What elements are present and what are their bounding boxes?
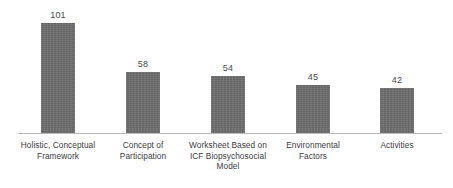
bar-chart: 101 58 54 45 42 Holistic, Conceptual Fra…: [0, 0, 453, 188]
plot-area: 101 58 54 45 42: [0, 0, 453, 135]
category-label: Concept of Participation: [97, 140, 189, 161]
category-label: Holistic, Conceptual Framework: [12, 140, 104, 161]
category-label: Worksheet Based on ICF Biopsychosocial M…: [182, 140, 274, 172]
category-label-line: ICF Biopsychosocial: [182, 151, 274, 162]
bar-value-label: 54: [183, 63, 273, 73]
category-label-line: Environmental: [267, 140, 359, 151]
bar[interactable]: [126, 72, 160, 133]
category-label-line: Participation: [97, 151, 189, 162]
category-label-line: Model: [182, 161, 274, 172]
category-label-line: Factors: [267, 151, 359, 162]
category-label: Activities: [351, 140, 443, 151]
bar-value-label: 45: [268, 72, 358, 82]
x-axis-category-labels: Holistic, Conceptual Framework Concept o…: [0, 137, 453, 185]
category-label-line: Concept of: [97, 140, 189, 151]
category-label: Environmental Factors: [267, 140, 359, 161]
bar[interactable]: [41, 23, 75, 133]
category-label-line: Framework: [12, 151, 104, 162]
bar-group: 54: [183, 0, 273, 135]
category-label-line: Activities: [351, 140, 443, 151]
bar[interactable]: [211, 76, 245, 133]
bar-group: 45: [268, 0, 358, 135]
bar-group: 42: [352, 0, 442, 135]
bar-group: 58: [98, 0, 188, 135]
bar[interactable]: [380, 88, 414, 133]
bar-value-label: 58: [98, 59, 188, 69]
bar-value-label: 101: [13, 10, 103, 20]
category-label-line: Holistic, Conceptual: [12, 140, 104, 151]
bar-group: 101: [13, 0, 103, 135]
bar-value-label: 42: [352, 75, 442, 85]
bar[interactable]: [296, 85, 330, 133]
category-label-line: Worksheet Based on: [182, 140, 274, 151]
